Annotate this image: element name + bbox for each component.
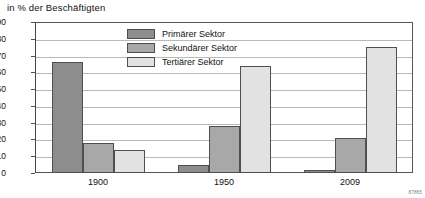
x-tick-label-1900: 1900 (88, 177, 108, 187)
bar-2009-sekundar (335, 138, 366, 173)
legend-swatch-primaer-icon (127, 29, 155, 39)
y-tick-label: 0 (0, 168, 6, 178)
legend-swatch-sekundaer-icon (127, 43, 155, 53)
y-tick-label: 10 (0, 151, 6, 161)
legend-label-tertiaer: Tertiärer Sektor (162, 57, 224, 67)
bar-2009-tertiar (366, 47, 397, 173)
y-tick-label: 70 (0, 51, 6, 61)
legend-item-tertiaer: Tertiärer Sektor (127, 55, 237, 68)
y-tick-label: 80 (0, 34, 6, 44)
source-code-label: 87865 (408, 190, 422, 195)
bar-1950-primar (178, 165, 209, 173)
y-tick-label: 40 (0, 101, 6, 111)
y-tick-label: 90 (0, 17, 6, 27)
chart-axis-title: in % der Beschäftigten (7, 2, 105, 13)
y-tick-mark (31, 173, 35, 174)
y-tick-label: 50 (0, 84, 6, 94)
bar-chart: in % der Beschäftigten 01020304050607080… (0, 0, 425, 198)
bar-1950-sekundar (209, 126, 240, 173)
bar-1900-tertiar (114, 150, 145, 173)
legend-item-sekundaer: Sekundärer Sektor (127, 41, 237, 54)
bar-1900-primar (52, 62, 83, 173)
legend-label-sekundaer: Sekundärer Sektor (162, 43, 237, 53)
bar-1950-tertiar (240, 66, 271, 173)
y-tick-label: 60 (0, 67, 6, 77)
legend-swatch-tertiaer-icon (127, 57, 155, 67)
x-tick-label-2009: 2009 (340, 177, 360, 187)
bar-1900-sekundar (83, 143, 114, 173)
legend-item-primaer: Primärer Sektor (127, 27, 237, 40)
bar-2009-primar (304, 170, 335, 173)
x-tick-label-1950: 1950 (214, 177, 234, 187)
y-tick-label: 20 (0, 134, 6, 144)
chart-legend: Primärer Sektor Sekundärer Sektor Tertiä… (127, 27, 237, 69)
y-tick-label: 30 (0, 118, 6, 128)
legend-label-primaer: Primärer Sektor (162, 29, 225, 39)
